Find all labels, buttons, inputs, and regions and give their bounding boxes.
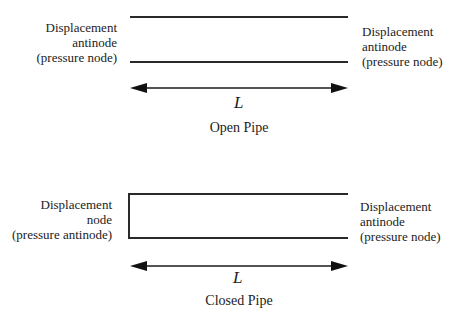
open-pipe-length-arrow: [0, 0, 452, 321]
closed-pipe-length-symbol: L: [233, 268, 242, 288]
closed-pipe-end-cap: [128, 193, 130, 239]
open-pipe-caption: Open Pipe: [189, 120, 289, 136]
label-line: node: [12, 212, 112, 227]
label-line: Displacement: [360, 199, 441, 214]
closed-pipe-caption: Closed Pipe: [184, 293, 294, 309]
closed-pipe-left-label: Displacement node (pressure antinode): [12, 197, 112, 242]
label-line: (pressure node): [360, 229, 441, 244]
label-line: Displacement: [12, 197, 112, 212]
closed-pipe-right-label: Displacement antinode (pressure node): [360, 199, 441, 244]
label-line: (pressure antinode): [12, 227, 112, 242]
closed-pipe-top-wall: [128, 193, 348, 195]
open-pipe-length-symbol: L: [234, 93, 243, 113]
closed-pipe-bottom-wall: [128, 237, 348, 239]
label-line: antinode: [360, 214, 441, 229]
